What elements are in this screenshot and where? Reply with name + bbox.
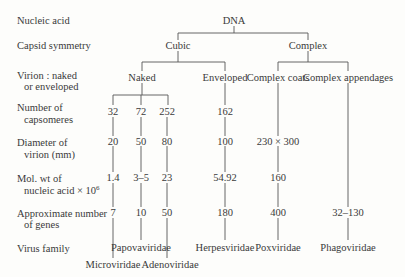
value-molwt-adenoviridae: 23	[162, 172, 173, 183]
row-label-virus-family: Virus family	[17, 243, 70, 254]
node-complex: Complex	[289, 40, 328, 51]
value-diameter-adenoviridae: 80	[162, 136, 173, 147]
value-molwt-poxviridae: 160	[270, 172, 286, 183]
value-genes-herpesviridae: 180	[217, 207, 233, 218]
row-label-capsomeres-line2: capsomeres	[24, 114, 73, 125]
row-label-genes-line1: Approximate number	[17, 208, 107, 219]
node-cubic: Cubic	[165, 40, 190, 51]
value-capsomeres-microviridae: 32	[108, 106, 119, 117]
row-label-nucleic-acid: Nucleic acid	[17, 15, 70, 26]
value-genes-adenoviridae: 50	[162, 207, 173, 218]
row-label-capsid-symmetry: Capsid symmetry	[17, 40, 91, 51]
node-complex-appendages: Complex appendages	[303, 72, 393, 83]
value-capsomeres-papovaviridae: 72	[136, 106, 147, 117]
value-genes-microviridae: 7	[110, 207, 115, 218]
row-label-diameter-line1: Diameter of	[17, 137, 67, 148]
node-naked: Naked	[128, 72, 155, 83]
node-enveloped: Enveloped	[203, 72, 248, 83]
row-label-molwt-line2: nucleic acid × 106	[24, 185, 100, 196]
row-label-diameter-line2: virion (mm)	[24, 149, 75, 160]
value-diameter-herpesviridae: 100	[217, 136, 233, 147]
value-molwt-microviridae: 1.4	[106, 172, 119, 183]
node-complex-coats: Complex coats	[247, 72, 310, 83]
family-poxviridae: Poxviridae	[255, 242, 301, 253]
family-papovaviridae: Papovaviridae	[111, 242, 171, 253]
family-phagoviridae: Phagoviridae	[320, 242, 375, 253]
value-capsomeres-herpesviridae: 162	[217, 106, 233, 117]
value-molwt-papovaviridae: 3–5	[133, 172, 149, 183]
family-herpesviridae: Herpesviridae	[196, 242, 255, 253]
value-diameter-poxviridae: 230 × 300	[257, 136, 300, 147]
value-capsomeres-adenoviridae: 252	[159, 106, 175, 117]
row-label-genes-line2: of genes	[24, 219, 59, 230]
family-adenoviridae: Adenoviridae	[141, 259, 198, 270]
row-label-virion-line2: or enveloped	[24, 81, 79, 92]
value-diameter-papovaviridae: 50	[136, 136, 147, 147]
family-microviridae: Microviridae	[86, 259, 141, 270]
value-genes-papovaviridae: 10	[136, 207, 147, 218]
row-label-capsomeres-line1: Number of	[17, 102, 63, 113]
row-label-virion-line1: Virion : naked	[17, 70, 77, 81]
value-genes-poxviridae: 400	[270, 207, 286, 218]
value-genes-phagoviridae: 32–130	[332, 207, 364, 218]
node-dna: DNA	[223, 15, 246, 26]
value-molwt-herpesviridae: 54.92	[213, 172, 237, 183]
value-diameter-microviridae: 20	[108, 136, 119, 147]
row-label-molwt-line1: Mol. wt of	[17, 173, 62, 184]
exponent: 6	[96, 184, 100, 192]
